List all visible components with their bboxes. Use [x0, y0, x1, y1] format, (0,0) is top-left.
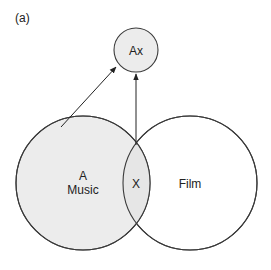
music-letter-label: A: [79, 169, 87, 183]
ax-label: Ax: [129, 44, 143, 58]
panel-label: (a): [15, 11, 30, 25]
intersection-label: X: [132, 177, 140, 191]
music-label: Music: [67, 183, 98, 197]
film-label: Film: [179, 177, 202, 191]
venn-diagram: (a) Ax A Music X Film: [0, 0, 271, 270]
